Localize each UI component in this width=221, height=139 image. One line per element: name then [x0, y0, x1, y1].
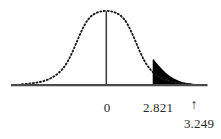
statistics-figure: 0 2.821 ↑ 3.249: [0, 0, 221, 139]
mean-tick-label: 0: [100, 101, 114, 114]
up-arrow-icon: ↑: [186, 98, 202, 111]
test-statistic-label: 3.249: [180, 117, 218, 130]
critical-value-tick-label: 2.821: [137, 101, 179, 114]
rejection-region-fill: [154, 60, 206, 86]
